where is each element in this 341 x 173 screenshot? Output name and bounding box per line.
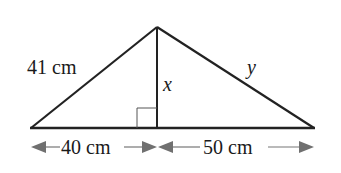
triangle-diagram: 41 cm x y 40 cm 50 cm [0,0,341,173]
left-base-label: 40 cm [60,137,111,157]
right-base-label: 50 cm [202,137,253,157]
right-angle-marker [137,108,157,128]
left-side-label: 41 cm [27,57,76,77]
altitude-label: x [163,74,172,94]
right-side-label: y [247,57,256,77]
right-side-line [157,27,314,128]
